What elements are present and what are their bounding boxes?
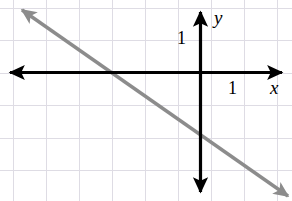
x-axis-tick-label-1: 1 bbox=[228, 79, 237, 97]
graph-canvas bbox=[0, 0, 292, 201]
y-axis-tick-label-1: 1 bbox=[177, 29, 186, 47]
x-axis-label: x bbox=[270, 78, 278, 97]
coordinate-plane-figure: y x 1 1 bbox=[0, 0, 292, 201]
y-axis-label: y bbox=[214, 8, 222, 27]
